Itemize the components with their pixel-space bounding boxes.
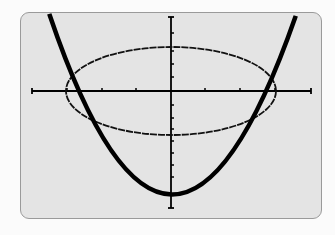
- graph-plot: [0, 0, 335, 235]
- axes: [32, 17, 311, 208]
